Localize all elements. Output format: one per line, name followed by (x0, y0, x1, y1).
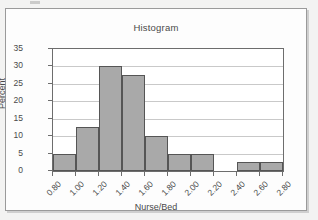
histogram-bar (145, 136, 168, 171)
y-tick-label: 10 (0, 130, 23, 140)
histogram-bar (99, 66, 122, 171)
histogram-bar (76, 127, 99, 171)
y-tick-label: 35 (0, 43, 23, 53)
chart-title: Histogram (6, 22, 306, 33)
screenshot-root: Histogram Percent 05101520253035 0.801.0… (0, 0, 318, 220)
gridline (53, 101, 283, 102)
y-tick-label: 5 (0, 148, 23, 158)
plot-area (52, 48, 284, 172)
y-tick-label: 0 (0, 165, 23, 175)
y-tick-label: 20 (0, 95, 23, 105)
x-tick-mark (167, 171, 168, 176)
x-tick-mark (190, 171, 191, 176)
gridline (53, 66, 283, 67)
x-tick-mark (144, 171, 145, 176)
x-tick-mark (213, 171, 214, 176)
x-tick-mark (236, 171, 237, 176)
histogram-bar (260, 162, 283, 171)
histogram-bar (237, 162, 260, 171)
gridline (53, 119, 283, 120)
histogram-bar (168, 154, 191, 171)
histogram-bar (122, 75, 145, 171)
histogram-bar (53, 154, 76, 171)
x-axis-label: Nurse/Bed (6, 202, 306, 212)
figure-frame: Histogram Percent 05101520253035 0.801.0… (5, 8, 307, 211)
x-tick-mark (75, 171, 76, 176)
y-tick-label: 25 (0, 78, 23, 88)
x-tick-mark (121, 171, 122, 176)
y-tick-label: 30 (0, 60, 23, 70)
scan-artifact (30, 1, 40, 4)
x-tick-mark (52, 171, 53, 176)
x-tick-mark (259, 171, 260, 176)
x-tick-mark (98, 171, 99, 176)
histogram-bar (191, 154, 214, 171)
x-tick-mark (282, 171, 283, 176)
gridline (53, 84, 283, 85)
y-tick-label: 15 (0, 113, 23, 123)
